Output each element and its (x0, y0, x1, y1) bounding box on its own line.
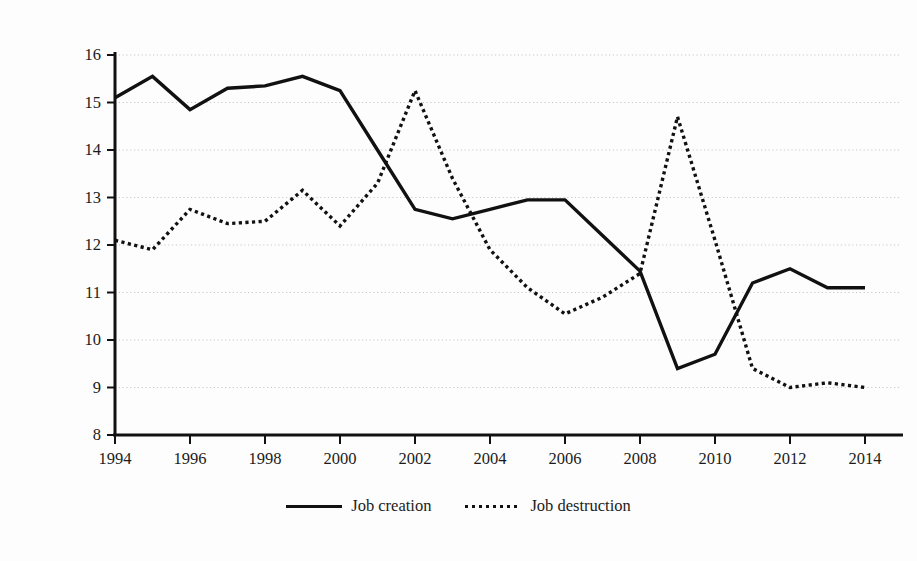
plot-area (0, 0, 917, 561)
legend-swatch-solid-line-icon (286, 500, 342, 512)
chart-legend: Job creation Job destruction (0, 498, 917, 515)
chart-figure: Percentage of employemnt 891011121314151… (0, 0, 917, 561)
x-tick-label: 1998 (225, 449, 305, 469)
y-tick-label: 10 (53, 330, 101, 350)
x-tick-label: 2008 (600, 449, 680, 469)
y-tick-label: 12 (53, 235, 101, 255)
x-tick-label: 2010 (675, 449, 755, 469)
data-series (115, 76, 865, 387)
y-tick-label: 8 (53, 425, 101, 445)
x-tick-label: 2014 (825, 449, 905, 469)
x-tick-label: 1996 (150, 449, 230, 469)
legend-item-job-creation: Job creation (286, 498, 431, 515)
series-line-job-destruction (115, 91, 865, 388)
x-tick-label: 2000 (300, 449, 380, 469)
legend-label-job-creation: Job creation (351, 498, 431, 515)
x-tick-label: 2012 (750, 449, 830, 469)
y-tick-label: 15 (53, 93, 101, 113)
y-tick-label: 9 (53, 378, 101, 398)
y-tick-label: 14 (53, 140, 101, 160)
legend-swatch-dotted-line-icon (465, 500, 521, 512)
x-tick-label: 2006 (525, 449, 605, 469)
y-tick-label: 16 (53, 45, 101, 65)
gridlines (115, 55, 900, 435)
axis-lines (113, 52, 903, 435)
legend-label-job-destruction: Job destruction (530, 498, 630, 515)
legend-item-job-destruction: Job destruction (465, 498, 630, 515)
x-tick-label: 2004 (450, 449, 530, 469)
x-tick-label: 2002 (375, 449, 455, 469)
x-tick-label: 1994 (75, 449, 155, 469)
y-tick-label: 11 (53, 283, 101, 303)
y-tick-label: 13 (53, 188, 101, 208)
